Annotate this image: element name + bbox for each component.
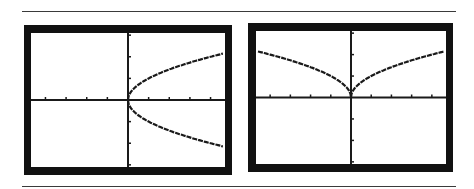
top-rule [22,11,456,12]
calculator-screen-left [24,25,232,175]
bottom-rule [22,186,456,187]
graph-sideways-parabola [31,33,225,167]
curve-series-1 [128,100,223,146]
graph-sqrt-abs-x [256,31,446,164]
calculator-screen-right [248,23,453,172]
curve-series-0 [128,54,223,100]
